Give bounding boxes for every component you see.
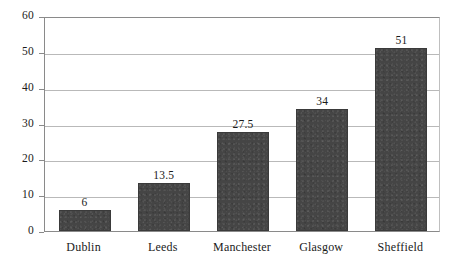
- bar-value-label: 51: [395, 34, 407, 46]
- y-axis-tick-label: 10: [22, 188, 34, 200]
- bar-chart: 0102030405060 613.527.53451 DublinLeedsM…: [0, 0, 463, 270]
- bar[interactable]: 34: [296, 109, 348, 231]
- bar-value-label: 27.5: [233, 118, 254, 130]
- bar-value-label: 34: [316, 95, 328, 107]
- plot-area: 613.527.53451: [44, 17, 440, 232]
- bar[interactable]: 27.5: [217, 132, 269, 231]
- y-axis-tick-label: 0: [28, 224, 34, 236]
- bar[interactable]: 51: [375, 48, 427, 231]
- bar[interactable]: 13.5: [138, 183, 190, 231]
- y-axis-tick-label: 50: [22, 45, 34, 57]
- x-axis-category-label: Glasgow: [299, 240, 343, 255]
- x-axis-category-label: Dublin: [66, 240, 101, 255]
- x-axis-category-label: Sheffield: [378, 240, 424, 255]
- x-axis-category-label: Leeds: [148, 240, 178, 255]
- y-axis: 0102030405060: [0, 17, 44, 232]
- bar[interactable]: 6: [59, 210, 111, 232]
- x-axis: DublinLeedsManchesterGlasgowSheffield: [44, 234, 440, 258]
- bar-value-label: 13.5: [153, 169, 174, 181]
- x-axis-category-label: Manchester: [213, 240, 271, 255]
- bar-value-label: 6: [82, 196, 88, 208]
- y-axis-tick-label: 30: [22, 117, 34, 129]
- y-axis-tick-mark: [39, 232, 44, 233]
- y-axis-tick-label: 20: [22, 152, 34, 164]
- y-axis-tick-label: 40: [22, 81, 34, 93]
- y-axis-tick-label: 60: [22, 9, 34, 21]
